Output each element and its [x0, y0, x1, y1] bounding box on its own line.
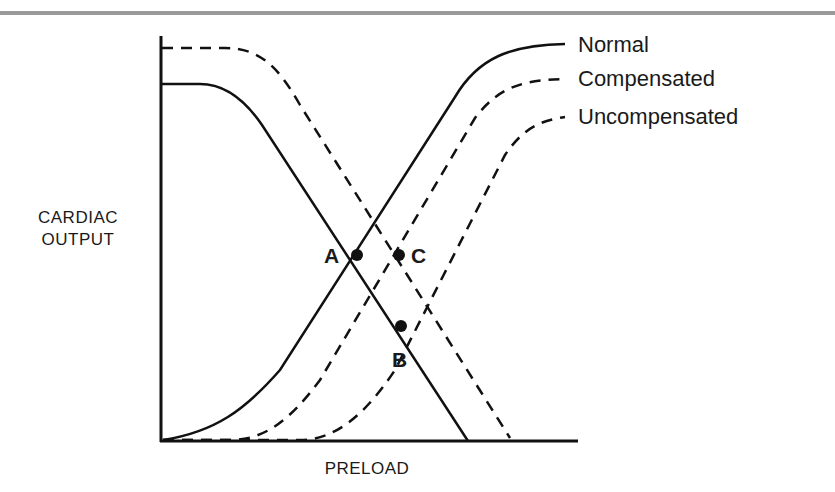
- falling-curve-dashed: [162, 48, 510, 438]
- point-b-label: B: [392, 348, 407, 371]
- point-a-marker: [351, 249, 363, 261]
- legend-compensated: Compensated: [578, 66, 715, 91]
- point-a-label: A: [324, 244, 339, 267]
- legend-uncompensated: Uncompensated: [578, 104, 738, 129]
- x-axis-title: PRELOAD: [325, 459, 410, 478]
- point-c-label: C: [411, 244, 426, 267]
- point-c-marker: [393, 249, 405, 261]
- curve-uncompensated: [163, 117, 565, 440]
- preload-cardiac-output-diagram: A C B Normal Compensated Uncompensated C…: [0, 0, 835, 492]
- curve-normal: [163, 44, 565, 440]
- point-b-marker: [395, 320, 407, 332]
- curve-compensated: [163, 79, 567, 440]
- y-axis-title-line2: OUTPUT: [42, 230, 115, 249]
- legend-normal: Normal: [578, 32, 649, 57]
- y-axis-title-line1: CARDIAC: [38, 208, 118, 227]
